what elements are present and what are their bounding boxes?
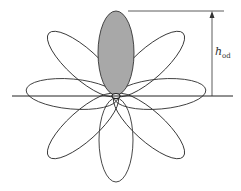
petal-diagram [0,0,241,191]
arrow-up-icon [210,11,215,18]
petal-top-highlighted [98,11,134,95]
dimension-label: hod [215,45,231,60]
petal-bottom [99,98,133,182]
label-subscript: od [222,52,231,60]
